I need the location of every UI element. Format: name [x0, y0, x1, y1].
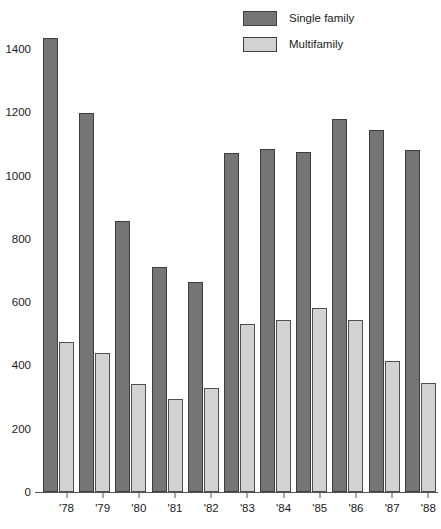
- x-axis-tick-mark: [428, 492, 429, 498]
- x-axis-tick-mark: [175, 492, 176, 498]
- x-axis-tick-label: '87: [385, 502, 400, 515]
- bar-single-family-87: [369, 130, 384, 492]
- x-axis-tick-label: '84: [276, 502, 291, 515]
- bar-multifamily-79: [95, 353, 110, 492]
- bar-single-family-79: [79, 113, 94, 492]
- x-axis-tick-label: '82: [204, 502, 219, 515]
- x-axis-tick-label: '81: [168, 502, 183, 515]
- y-axis-tick-label: 400: [12, 359, 40, 371]
- bar-single-family-82: [188, 282, 203, 492]
- y-axis-tick-label: 1200: [5, 106, 40, 118]
- x-axis-tick-label: '85: [312, 502, 327, 515]
- y-axis-tick-label: 800: [12, 233, 40, 245]
- bar-single-family-83: [224, 153, 239, 492]
- x-axis-tick-mark: [283, 492, 284, 498]
- x-axis-tick-label: '83: [240, 502, 255, 515]
- bar-multifamily-80: [131, 384, 146, 492]
- y-axis-tick-label: 1000: [5, 170, 40, 182]
- bar-multifamily-85: [312, 308, 327, 492]
- x-axis-tick-mark: [211, 492, 212, 498]
- bar-multifamily-78: [59, 342, 74, 492]
- x-axis-line: [40, 492, 438, 493]
- x-axis-tick-label: '79: [95, 502, 110, 515]
- bar-multifamily-82: [204, 388, 219, 492]
- bar-multifamily-84: [276, 320, 291, 492]
- bar-multifamily-87: [385, 361, 400, 492]
- y-axis-tick-label: 200: [12, 423, 40, 435]
- bar-single-family-81: [152, 267, 167, 492]
- x-axis-tick-mark: [66, 492, 67, 498]
- bar-multifamily-86: [348, 320, 363, 492]
- bar-multifamily-83: [240, 324, 255, 492]
- x-axis-tick-label: '78: [59, 502, 74, 515]
- bar-multifamily-88: [421, 383, 436, 492]
- x-axis-tick-label: '86: [348, 502, 363, 515]
- x-axis-tick-mark: [319, 492, 320, 498]
- legend-swatch-single_family: [243, 11, 277, 26]
- x-axis-tick-label: '80: [131, 502, 146, 515]
- y-axis-tick-label: 1400: [5, 43, 40, 55]
- x-axis-tick-mark: [138, 492, 139, 498]
- legend-entry-single_family: Single family: [243, 11, 354, 26]
- bar-single-family-86: [332, 119, 347, 492]
- bar-single-family-78: [43, 38, 58, 492]
- bar-single-family-88: [405, 150, 420, 492]
- bar-single-family-84: [260, 149, 275, 492]
- x-axis-tick-mark: [355, 492, 356, 498]
- x-axis-tick-mark: [392, 492, 393, 498]
- x-axis-tick-label: '88: [421, 502, 436, 515]
- bar-single-family-80: [115, 221, 130, 493]
- bar-chart: Single familyMultifamily 020040060080010…: [0, 0, 441, 529]
- plot-area: 0200400600800100012001400 '78'79'80'81'8…: [40, 30, 438, 492]
- bar-multifamily-81: [168, 399, 183, 492]
- legend-label-single_family: Single family: [289, 12, 354, 25]
- x-axis-tick-mark: [247, 492, 248, 498]
- y-axis-tick-mark: [35, 492, 40, 493]
- y-axis-tick-label: 600: [12, 296, 40, 308]
- bar-single-family-85: [296, 152, 311, 492]
- x-axis-tick-mark: [102, 492, 103, 498]
